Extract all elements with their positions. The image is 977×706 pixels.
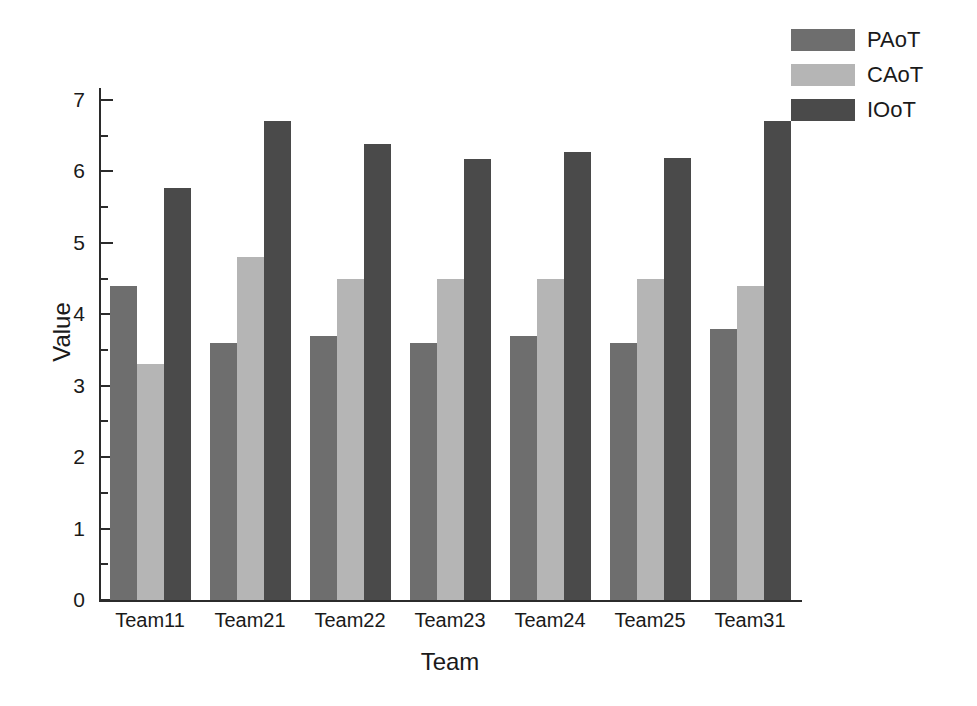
bar-chart: 01234567 Team11Team21Team22Team23Team24T… bbox=[0, 0, 977, 706]
bar bbox=[164, 188, 191, 600]
bar bbox=[237, 257, 264, 600]
x-axis-title: Team bbox=[100, 648, 800, 676]
legend-swatch bbox=[791, 99, 855, 121]
bar bbox=[137, 364, 164, 600]
bar bbox=[364, 144, 391, 600]
bar bbox=[210, 343, 237, 600]
y-axis-tick-label: 0 bbox=[45, 589, 85, 610]
bar bbox=[264, 121, 291, 600]
bar bbox=[564, 152, 591, 600]
legend-label: PAoT bbox=[867, 29, 920, 51]
legend-label: CAoT bbox=[867, 64, 923, 86]
x-axis-line bbox=[99, 600, 802, 602]
bar bbox=[437, 279, 464, 600]
bar bbox=[537, 279, 564, 600]
y-axis-tick-label: 5 bbox=[45, 232, 85, 253]
plot-area bbox=[100, 100, 800, 600]
bar bbox=[764, 121, 791, 600]
bar bbox=[510, 336, 537, 600]
y-axis-tick-label: 7 bbox=[45, 89, 85, 110]
y-axis-tick-label: 6 bbox=[45, 160, 85, 181]
legend-swatch bbox=[791, 29, 855, 51]
legend-item: PAoT bbox=[791, 26, 923, 54]
bar bbox=[464, 159, 491, 600]
bar bbox=[410, 343, 437, 600]
chart-legend: PAoTCAoTIOoT bbox=[791, 26, 923, 131]
bar bbox=[337, 279, 364, 600]
bar bbox=[664, 158, 691, 600]
legend-item: IOoT bbox=[791, 96, 923, 124]
legend-item: CAoT bbox=[791, 61, 923, 89]
bar bbox=[110, 286, 137, 600]
y-axis-tick-label: 2 bbox=[45, 446, 85, 467]
y-axis-title: Value bbox=[48, 262, 76, 402]
legend-swatch bbox=[791, 64, 855, 86]
bar bbox=[610, 343, 637, 600]
legend-label: IOoT bbox=[867, 99, 916, 121]
bar bbox=[710, 329, 737, 600]
bar bbox=[737, 286, 764, 600]
bar bbox=[637, 279, 664, 600]
y-axis-tick-label: 1 bbox=[45, 518, 85, 539]
x-axis-tick-label: Team31 bbox=[685, 609, 815, 631]
bar bbox=[310, 336, 337, 600]
